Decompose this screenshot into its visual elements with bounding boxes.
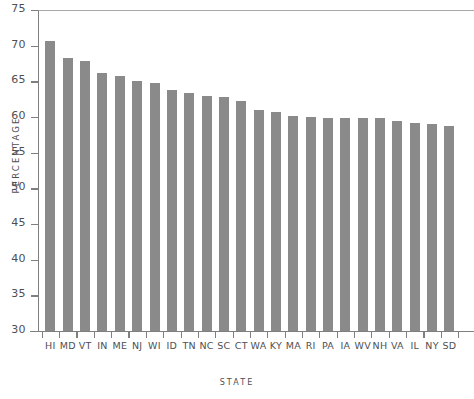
x-tick-mark [423, 331, 424, 338]
y-tick-mark [31, 331, 38, 332]
x-tick-mark [94, 331, 95, 338]
y-axis-title: PERCENTAGE [11, 95, 21, 215]
x-tick-mark [233, 331, 234, 338]
bar-VT [80, 61, 90, 331]
x-tick-mark [441, 331, 442, 338]
bar-NH [375, 118, 385, 331]
bar-WV [358, 118, 368, 331]
y-tick-label: 75 [11, 2, 26, 15]
bar-RI [306, 117, 316, 331]
x-tick-mark [42, 331, 43, 338]
bar-KY [271, 112, 281, 331]
bar-IL [410, 123, 420, 331]
bar-chart-figure: 75706560555045403530 PERCENTAGE HIMDVTIN… [0, 0, 474, 399]
y-tick-mark [31, 188, 38, 189]
bar-SC [219, 97, 229, 331]
bar-HI [45, 41, 55, 331]
y-tick-label: 40 [11, 252, 26, 265]
bars-layer [38, 10, 474, 331]
bar-NC [202, 96, 212, 331]
bar-NY [427, 124, 437, 331]
x-axis: HIMDVTINMENJWIIDTNNCSCCTWAKYMARIPAIAWVNH… [38, 331, 474, 371]
x-tick-mark [198, 331, 199, 338]
x-tick-mark [59, 331, 60, 338]
x-tick-mark [458, 331, 459, 338]
bar-WI [150, 83, 160, 331]
y-tick-mark [31, 46, 38, 47]
bar-VA [392, 121, 402, 331]
y-tick-mark [31, 10, 38, 11]
x-axis-title: STATE [0, 378, 474, 387]
y-tick-label: 45 [11, 216, 26, 229]
x-tick-mark [215, 331, 216, 338]
x-tick-mark [337, 331, 338, 338]
bar-MA [288, 116, 298, 331]
y-tick-mark [31, 117, 38, 118]
x-tick-mark [406, 331, 407, 338]
x-tick-mark [111, 331, 112, 338]
bar-IA [340, 118, 350, 331]
x-tick-mark [76, 331, 77, 338]
x-tick-mark [302, 331, 303, 338]
bar-TN [184, 93, 194, 331]
x-tick-mark [181, 331, 182, 338]
x-tick-mark [128, 331, 129, 338]
x-tick-mark [267, 331, 268, 338]
y-tick-mark [31, 224, 38, 225]
x-tick-mark [389, 331, 390, 338]
y-tick-mark [31, 260, 38, 261]
y-tick-label: 70 [11, 38, 26, 51]
bar-SD [444, 126, 454, 331]
y-tick-mark [31, 295, 38, 296]
x-tick-mark [354, 331, 355, 338]
x-tick-mark [319, 331, 320, 338]
y-tick-mark [31, 81, 38, 82]
bar-ID [167, 90, 177, 331]
y-tick-label: 35 [11, 287, 26, 300]
bar-WA [254, 110, 264, 331]
y-tick-label: 65 [11, 73, 26, 86]
x-tick-mark [163, 331, 164, 338]
bar-MD [63, 58, 73, 331]
x-tick-mark [250, 331, 251, 338]
x-tick-mark [285, 331, 286, 338]
bar-ME [115, 76, 125, 331]
y-tick-mark [31, 153, 38, 154]
bar-CT [236, 101, 246, 331]
x-tick-mark [371, 331, 372, 338]
y-tick-label: 30 [11, 323, 26, 336]
bar-IN [97, 73, 107, 331]
x-tick-mark [146, 331, 147, 338]
x-tick-label-SD: SD [436, 340, 462, 351]
bar-PA [323, 118, 333, 331]
bar-NJ [132, 81, 142, 331]
